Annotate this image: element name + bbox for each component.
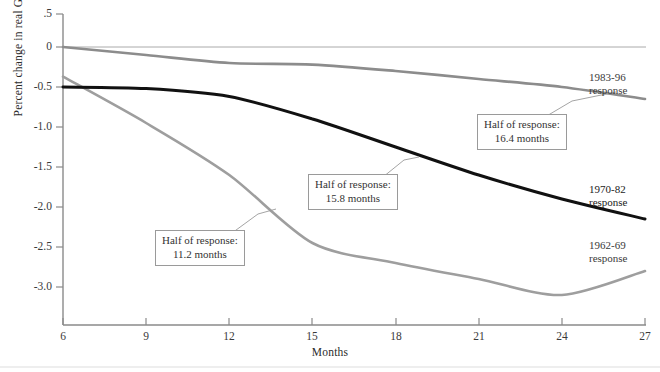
xtick-label-6: 24: [547, 330, 577, 342]
chart-figure: .5 0 -0.5 -1.0 -1.5 -2.0 -2.5 -3.0 6 9 1…: [0, 0, 660, 372]
series-label-1962-69-line2: response: [589, 252, 628, 264]
xtick-label-0: 6: [48, 330, 78, 342]
x-axis-title: Months: [0, 346, 660, 358]
callout-1970-82-line1: Half of response:: [315, 178, 391, 190]
y-axis-title-wrap: Percent change in real GDP: [14, 60, 28, 280]
callout-1970-82: Half of response: 15.8 months: [308, 174, 398, 210]
series-line-1983-96: [63, 47, 645, 99]
series-label-1962-69-line1: 1962-69: [589, 239, 626, 251]
y-tick-marks: [56, 14, 63, 287]
series-label-1970-82: 1970-82 response: [589, 183, 628, 209]
callout-1983-96: Half of response: 16.4 months: [477, 114, 567, 150]
series-label-1983-96-line1: 1983-96: [589, 71, 626, 83]
xtick-label-7: 27: [630, 330, 660, 342]
callout-1962-69-line2: 11.2 months: [162, 248, 238, 262]
series-label-1983-96-line2: response: [589, 84, 628, 96]
callout-1983-96-line1: Half of response:: [484, 118, 560, 130]
xtick-label-3: 15: [297, 330, 327, 342]
xtick-label-2: 12: [214, 330, 244, 342]
y-axis-title: Percent change in real GDP: [12, 0, 24, 150]
callout-1983-96-line2: 16.4 months: [484, 132, 560, 146]
series-label-1970-82-line1: 1970-82: [589, 183, 626, 195]
xtick-label-5: 21: [464, 330, 494, 342]
x-tick-marks: [63, 318, 645, 325]
xtick-label-4: 18: [381, 330, 411, 342]
xtick-label-1: 9: [131, 330, 161, 342]
series-label-1970-82-line2: response: [589, 196, 628, 208]
callout-1962-69-line1: Half of response:: [162, 234, 238, 246]
series-label-1962-69: 1962-69 response: [589, 239, 628, 265]
ytick-label-7: -3.0: [18, 280, 52, 292]
callout-1962-69: Half of response: 11.2 months: [155, 230, 245, 266]
callout-1970-82-line2: 15.8 months: [315, 192, 391, 206]
bottom-divider: [0, 366, 660, 368]
series-label-1983-96: 1983-96 response: [589, 71, 628, 97]
